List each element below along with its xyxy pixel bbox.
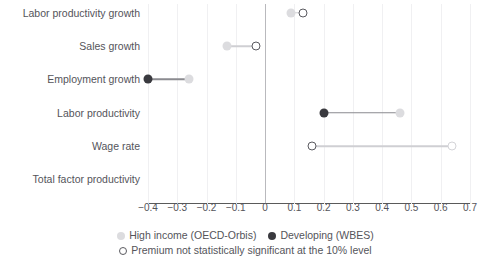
gridline: [324, 4, 325, 204]
zero-reference-line: [265, 4, 266, 204]
legend-item: Premium not statistically significant at…: [119, 243, 371, 258]
legend-item: High income (OECD-Orbis): [117, 228, 256, 243]
legend-item: Developing (WBES): [268, 228, 373, 243]
gridline: [148, 4, 149, 204]
connector-line: [324, 112, 400, 114]
gridline: [294, 4, 295, 204]
y-axis-label: Sales growth: [79, 40, 140, 52]
y-axis-label: Total factor productivity: [33, 173, 140, 185]
data-point-marker: [223, 42, 232, 51]
data-point-marker: [287, 8, 296, 17]
gridline: [382, 4, 383, 204]
x-axis-tick-label: 0.3: [346, 202, 360, 213]
y-axis-label: Labor productivity growth: [23, 7, 140, 19]
plot-area: Labor productivity growthSales growthEmp…: [148, 4, 470, 204]
data-point-marker: [395, 108, 404, 117]
data-point-marker: [299, 8, 308, 17]
y-axis-label: Wage rate: [92, 140, 140, 152]
gridline: [353, 4, 354, 204]
x-axis-tick-label: −0.4: [138, 202, 158, 213]
x-axis-tick-label: 0.7: [463, 202, 477, 213]
y-axis-label: Employment growth: [47, 73, 140, 85]
gridline: [411, 4, 412, 204]
connector-line: [148, 79, 189, 81]
gridline: [177, 4, 178, 204]
dumbbell-chart: Labor productivity growthSales growthEmp…: [0, 0, 491, 265]
x-axis-tick-label: 0.4: [375, 202, 389, 213]
x-axis-tick-label: −0.2: [197, 202, 217, 213]
gridline: [236, 4, 237, 204]
data-point-marker: [184, 75, 193, 84]
x-axis-tick-label: −0.1: [226, 202, 246, 213]
gridline: [470, 4, 471, 204]
legend-label: High income (OECD-Orbis): [129, 229, 256, 241]
x-axis-tick-label: −0.3: [167, 202, 187, 213]
legend-label: Premium not statistically significant at…: [131, 244, 371, 256]
x-axis-tick-label: 0.2: [317, 202, 331, 213]
legend-swatch-icon: [268, 232, 276, 240]
legend-swatch-icon: [117, 232, 125, 240]
x-axis-tick-label: 0: [262, 202, 268, 213]
legend-swatch-icon: [119, 247, 127, 255]
gridline: [441, 4, 442, 204]
connector-line: [312, 145, 453, 147]
chart-legend: High income (OECD-Orbis)Developing (WBES…: [0, 228, 491, 258]
legend-row-series: High income (OECD-Orbis)Developing (WBES…: [0, 228, 491, 243]
gridline: [207, 4, 208, 204]
data-point-marker: [448, 142, 457, 151]
data-point-marker: [144, 75, 153, 84]
y-axis-label: Labor productivity: [57, 107, 140, 119]
x-axis-tick-label: 0.1: [287, 202, 301, 213]
x-axis-tick-label: 0.6: [434, 202, 448, 213]
x-axis-tick-label: 0.5: [405, 202, 419, 213]
legend-row-significance: Premium not statistically significant at…: [0, 243, 491, 258]
data-point-marker: [307, 142, 316, 151]
data-point-marker: [319, 108, 328, 117]
data-point-marker: [252, 42, 261, 51]
legend-label: Developing (WBES): [280, 229, 373, 241]
